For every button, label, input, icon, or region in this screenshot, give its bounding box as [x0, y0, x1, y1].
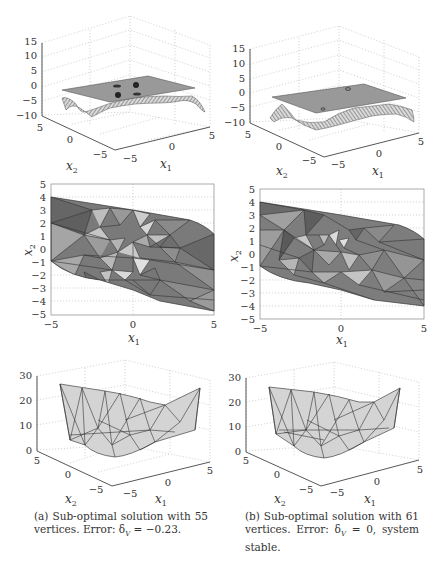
x1-axis-label: x1 — [336, 333, 348, 349]
svg-text:5: 5 — [245, 129, 251, 140]
surface-3d-chart: 30 20 10 0 5 0 −5 −5 0 5 x2 x1 — [0, 360, 224, 505]
x1-axis-ticks: −5 0 5 — [44, 319, 218, 330]
svg-text:2: 2 — [40, 218, 46, 229]
svg-text:0: 0 — [67, 134, 73, 145]
plot-b-top-surface: 15 10 5 0 −5 −10 5 0 −5 −5 0 5 x2 x1 — [224, 0, 447, 180]
x1-axis-label: x1 — [372, 164, 384, 180]
x1-axis-ticks: −5 0 5 — [330, 464, 424, 498]
svg-text:30: 30 — [19, 370, 32, 381]
x2-axis-label: x2 — [227, 250, 243, 262]
z-axis-ticks: 15 10 5 0 −5 −10 — [224, 43, 245, 128]
svg-text:15: 15 — [24, 36, 37, 47]
x2-axis-ticks: 5 0 −5 — [37, 122, 108, 160]
z-axis-ticks: 30 20 10 0 — [228, 372, 241, 457]
x2-axis-ticks: 5 0 −5 — [243, 455, 314, 495]
plot-b-middle-triangulation: 5 4 3 2 1 0 −1 −2 −3 −4 −5 −5 0 5 x1 x2 — [224, 180, 447, 360]
svg-text:−5: −5 — [89, 484, 104, 495]
svg-text:0: 0 — [249, 249, 255, 260]
x2-axis-label: x2 — [21, 244, 37, 256]
svg-text:10: 10 — [232, 58, 245, 69]
surface-3d-chart: 30 20 10 0 5 0 −5 −5 0 5 x2 x1 — [224, 360, 447, 505]
svg-text:−2: −2 — [240, 275, 255, 286]
svg-text:5: 5 — [34, 455, 40, 466]
x1-axis-ticks: −5 0 5 — [123, 130, 216, 164]
triangulation-2d-chart: 5 4 3 2 1 0 −1 −2 −3 −4 −5 −5 0 5 x1 x2 — [224, 180, 447, 360]
svg-text:1: 1 — [249, 236, 255, 247]
svg-text:0: 0 — [374, 476, 380, 487]
x2-axis-label: x2 — [274, 492, 286, 508]
svg-text:−4: −4 — [31, 296, 46, 307]
x2-axis-label: x2 — [66, 159, 78, 175]
caption-a-line2: vertices. Error: δV = −0.23. — [34, 523, 208, 541]
svg-text:0: 0 — [376, 148, 382, 159]
x2-axis-label: x2 — [276, 164, 288, 180]
svg-text:0: 0 — [165, 477, 171, 488]
x1-axis-label: x1 — [155, 492, 167, 508]
svg-text:3: 3 — [40, 205, 46, 216]
svg-text:1: 1 — [40, 231, 46, 242]
svg-text:0: 0 — [235, 446, 241, 457]
svg-text:−10: −10 — [224, 117, 245, 128]
svg-text:−5: −5 — [302, 155, 317, 166]
svg-text:−5: −5 — [230, 102, 245, 113]
z-axis-ticks: 15 10 5 0 −5 −10 — [16, 36, 37, 121]
svg-text:−5: −5 — [331, 159, 346, 170]
caption-b: (b) Sub-optimal solution with 61 vertice… — [245, 510, 419, 554]
svg-text:−10: −10 — [16, 110, 37, 121]
svg-text:3: 3 — [249, 210, 255, 221]
plot-a-middle-triangulation: 5 4 3 2 1 0 −1 −2 −3 −4 −5 −5 0 5 x1 x2 — [0, 180, 224, 360]
svg-text:−5: −5 — [44, 319, 59, 330]
svg-text:10: 10 — [24, 50, 37, 61]
svg-text:5: 5 — [207, 465, 213, 476]
svg-text:30: 30 — [228, 372, 241, 383]
x2-axis-ticks: 5 0 −5 — [34, 455, 104, 495]
svg-text:−4: −4 — [240, 301, 255, 312]
svg-text:0: 0 — [130, 319, 136, 330]
surface-3d-chart: 15 10 5 0 −5 −10 5 0 −5 −5 0 5 x2 x1 — [0, 0, 224, 180]
svg-text:−5: −5 — [253, 323, 268, 334]
svg-text:−5: −5 — [93, 149, 108, 160]
x2-axis-label: x2 — [65, 492, 77, 508]
mesh-surface — [62, 96, 205, 117]
svg-text:−1: −1 — [31, 257, 46, 268]
svg-text:−3: −3 — [31, 283, 46, 294]
triangulated-region — [51, 184, 214, 315]
svg-text:0: 0 — [26, 445, 32, 456]
x1-axis-label: x1 — [160, 157, 172, 173]
caption-a: (a) Sub-optimal solution with 55 vertice… — [34, 510, 208, 541]
x1-axis-label: x1 — [364, 492, 376, 508]
svg-text:5: 5 — [417, 464, 423, 475]
svg-text:5: 5 — [418, 136, 424, 147]
svg-text:5: 5 — [421, 323, 427, 334]
surface-3d-chart: 15 10 5 0 −5 −10 5 0 −5 −5 0 5 x2 x1 — [224, 0, 447, 180]
svg-text:5: 5 — [37, 122, 43, 133]
svg-text:15: 15 — [232, 43, 245, 54]
svg-text:4: 4 — [249, 197, 255, 208]
triangulation-2d-chart: 5 4 3 2 1 0 −1 −2 −3 −4 −5 −5 0 5 x1 x2 — [0, 180, 224, 360]
svg-text:0: 0 — [40, 244, 46, 255]
svg-text:−5: −5 — [123, 153, 138, 164]
caption-b-line1: (b) Sub-optimal solution with 61 — [245, 510, 419, 523]
svg-text:0: 0 — [31, 80, 37, 91]
svg-text:5: 5 — [211, 319, 217, 330]
svg-text:−5: −5 — [123, 488, 138, 499]
svg-text:−5: −5 — [22, 95, 37, 106]
svg-text:−5: −5 — [299, 484, 314, 495]
svg-text:20: 20 — [228, 397, 241, 408]
svg-text:5: 5 — [31, 65, 37, 76]
svg-text:10: 10 — [228, 421, 241, 432]
caption-b-line2: vertices. Error: δV = 0, system — [245, 523, 419, 541]
svg-text:4: 4 — [40, 192, 46, 203]
caption-a-line1: (a) Sub-optimal solution with 55 — [34, 510, 208, 523]
svg-text:−3: −3 — [240, 288, 255, 299]
svg-text:10: 10 — [19, 420, 32, 431]
svg-text:5: 5 — [239, 73, 245, 84]
x1-axis-label: x1 — [128, 331, 140, 347]
caption-b-line3: stable. — [245, 541, 419, 554]
svg-text:0: 0 — [169, 141, 175, 152]
plot-a-top-surface: 15 10 5 0 −5 −10 5 0 −5 −5 0 5 x2 x1 — [0, 0, 224, 180]
x1-axis-ticks: −5 0 5 — [123, 465, 214, 499]
plot-a-bottom-surface: 30 20 10 0 5 0 −5 −5 0 5 x2 x1 — [0, 360, 224, 505]
svg-text:0: 0 — [276, 141, 282, 152]
svg-text:5: 5 — [243, 455, 249, 466]
